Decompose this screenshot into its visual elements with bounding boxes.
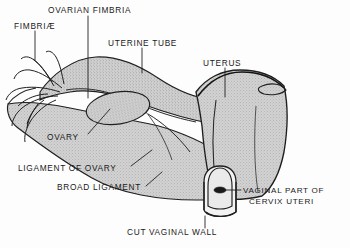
label-ligament-of-ovary: LIGAMENT OF OVARY bbox=[18, 163, 117, 174]
label-uterine-tube: UTERINE TUBE bbox=[108, 38, 177, 49]
anatomical-figure: FIMBRIÆ OVARIAN FIMBRIA UTERINE TUBE UTE… bbox=[0, 0, 350, 248]
label-vaginal-part-of-cervix-line1: VAGINAL PART OF bbox=[243, 185, 324, 196]
label-fimbriae: FIMBRIÆ bbox=[14, 21, 55, 32]
label-cut-vaginal-wall: CUT VAGINAL WALL bbox=[127, 227, 217, 238]
label-uterus: UTERUS bbox=[203, 58, 241, 69]
label-vaginal-part-of-cervix-line2: CERVIX UTERI bbox=[249, 196, 314, 207]
label-ovary: OVARY bbox=[47, 132, 79, 143]
label-broad-ligament: BROAD LIGAMENT bbox=[57, 182, 141, 193]
label-ovarian-fimbria: OVARIAN FIMBRIA bbox=[48, 5, 131, 16]
